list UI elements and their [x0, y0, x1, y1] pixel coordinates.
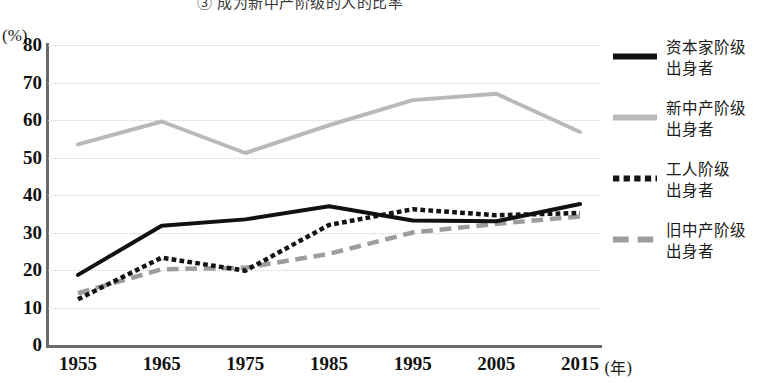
series-lines	[48, 45, 600, 345]
legend-item[interactable]: 新中产阶级 出身者	[612, 99, 760, 147]
x-axis-line	[46, 345, 602, 348]
y-tick-label: 10	[2, 297, 42, 319]
legend-item[interactable]: 工人阶级 出身者	[612, 160, 760, 208]
chart-title: ③ 成为新中产阶级的人的比率	[0, 0, 600, 12]
legend-item-label: 旧中产阶级 出身者	[666, 221, 760, 263]
chart-legend: 资本家阶级 出身者新中产阶级 出身者工人阶级 出身者旧中产阶级 出身者	[612, 38, 760, 282]
legend-item-label: 工人阶级 出身者	[666, 160, 760, 202]
dashed-gray-line-icon	[612, 230, 658, 237]
chart-figure: ③ 成为新中产阶级的人的比率 (%) (年) 01020304050607080…	[0, 0, 760, 383]
solid-gray-line-icon	[612, 108, 658, 115]
y-tick-label: 0	[2, 334, 42, 356]
y-tick-label: 20	[2, 259, 42, 281]
y-tick-label: 30	[2, 222, 42, 244]
series-line	[78, 216, 580, 293]
x-tick-label: 2005	[456, 353, 536, 375]
y-tick-label: 40	[2, 184, 42, 206]
legend-item-label: 资本家阶级 出身者	[666, 38, 760, 80]
legend-item[interactable]: 旧中产阶级 出身者	[612, 221, 760, 269]
y-axis-tick-labels: 01020304050607080	[0, 45, 42, 345]
x-tick-label: 1955	[38, 353, 118, 375]
plot-area	[48, 45, 600, 345]
series-line	[78, 94, 580, 153]
x-tick-label: 1975	[205, 353, 285, 375]
x-tick-label: 2015	[540, 353, 620, 375]
x-tick-label: 1965	[122, 353, 202, 375]
y-tick-label: 80	[2, 34, 42, 56]
x-tick-label: 1995	[373, 353, 453, 375]
legend-item-label: 新中产阶级 出身者	[666, 99, 760, 141]
solid-black-line-icon	[612, 47, 658, 54]
y-tick-label: 70	[2, 72, 42, 94]
y-tick-label: 60	[2, 109, 42, 131]
dotted-black-line-icon	[612, 169, 658, 176]
legend-item[interactable]: 资本家阶级 出身者	[612, 38, 760, 86]
y-tick-label: 50	[2, 147, 42, 169]
x-tick-label: 1985	[289, 353, 369, 375]
